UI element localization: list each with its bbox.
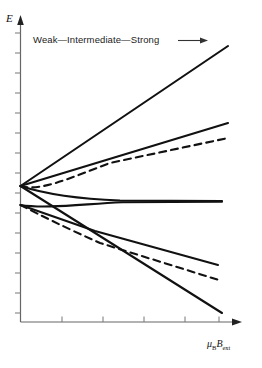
regime-label: Weak—Intermediate—Strong — [33, 34, 159, 45]
curve-upper-level-branch-2 — [21, 123, 229, 186]
y-axis-ticks — [15, 33, 21, 313]
curve-lower-level-branch-2 — [21, 205, 219, 265]
x-axis-ticks — [62, 317, 219, 323]
curve-upper-level-branch-3-dashed — [21, 138, 229, 187]
energy-level-curves — [21, 46, 229, 313]
zeeman-energy-level-diagram: E Weak—Intermediate—Strong μBBext — [0, 0, 262, 368]
x-axis-label: μBBext — [207, 338, 230, 351]
curve-upper-level-branch-4-flat — [21, 186, 223, 201]
y-axis-arrowhead — [17, 15, 24, 25]
curve-lower-level-branch-4-steep — [21, 186, 223, 313]
chart-canvas — [0, 0, 262, 368]
axes-group — [17, 15, 242, 325]
x-axis-label-b-sub: ext — [222, 344, 230, 351]
curve-upper-level-branch-1 — [21, 46, 229, 186]
x-axis-arrowhead — [232, 319, 242, 326]
y-axis-label: E — [6, 12, 13, 24]
regime-progression-arrow — [178, 38, 208, 44]
